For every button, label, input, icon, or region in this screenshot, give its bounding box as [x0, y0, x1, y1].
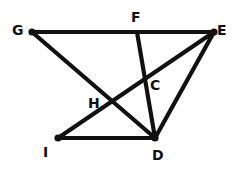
vertex-dots-group [28, 28, 217, 141]
point-label-e: E [217, 22, 227, 38]
geometry-diagram: GFECHID [0, 0, 242, 169]
vertex-dot-g [28, 28, 35, 35]
segment-ed [155, 32, 214, 138]
segments-group [32, 32, 214, 138]
point-label-c: C [150, 77, 160, 93]
vertex-dot-d [151, 134, 158, 141]
point-label-h: H [88, 95, 100, 111]
point-label-i: I [43, 144, 48, 160]
point-label-d: D [152, 147, 164, 163]
point-label-f: F [131, 9, 141, 25]
point-label-g: G [12, 22, 24, 38]
vertex-dot-i [54, 134, 61, 141]
